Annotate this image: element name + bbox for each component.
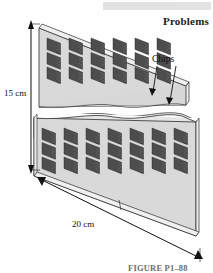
figure-page: CHAPTER 1 INTRODUCTION Problems (0, 0, 213, 273)
width-dimension-label: 20 cm (72, 219, 94, 229)
upper-board (39, 24, 189, 108)
lower-board-chips (42, 128, 188, 174)
height-dimension-label: 15 cm (4, 88, 26, 98)
figure-illustration (0, 0, 213, 273)
chips-callout-label: Chips (152, 54, 174, 64)
lower-board (34, 112, 199, 236)
figure-caption: FIGURE P1–88 (128, 263, 213, 272)
